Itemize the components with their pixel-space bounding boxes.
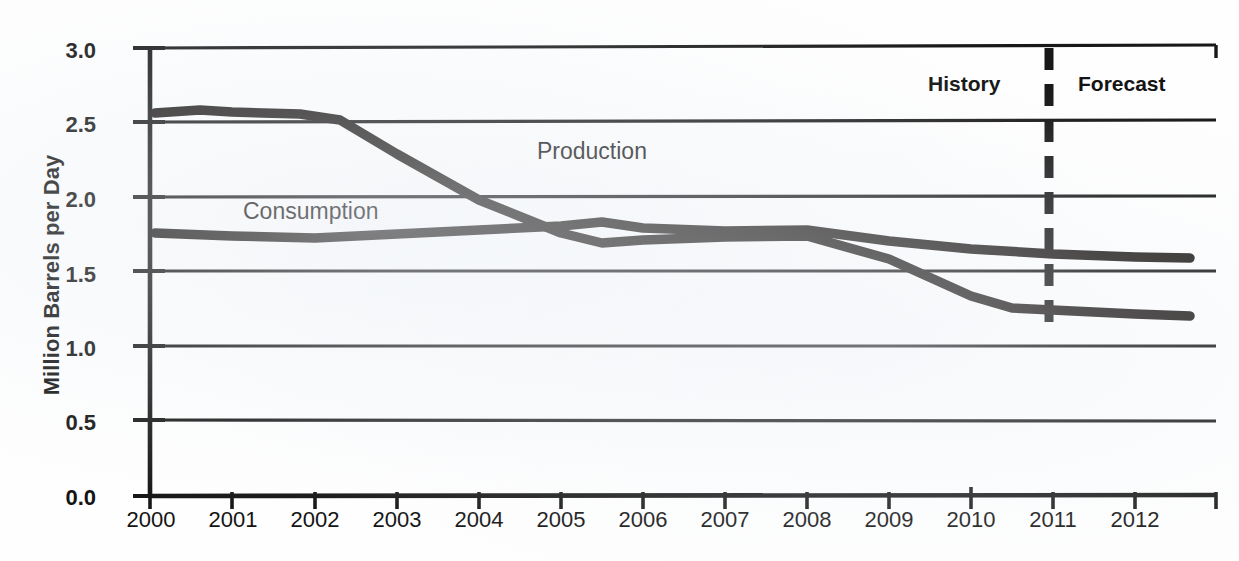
gridline-0-5 — [148, 420, 1216, 421]
chart-figure: Million Barrels per Day 3.0 2.5 2.0 1.5 … — [0, 0, 1239, 561]
x-axis-line — [148, 495, 1216, 496]
gridline-3-0 — [148, 45, 1216, 48]
gridline-2-5 — [148, 120, 1216, 122]
plot-area — [0, 0, 1239, 561]
series-line-production — [155, 110, 1190, 316]
gridline-2-0 — [148, 196, 1216, 197]
